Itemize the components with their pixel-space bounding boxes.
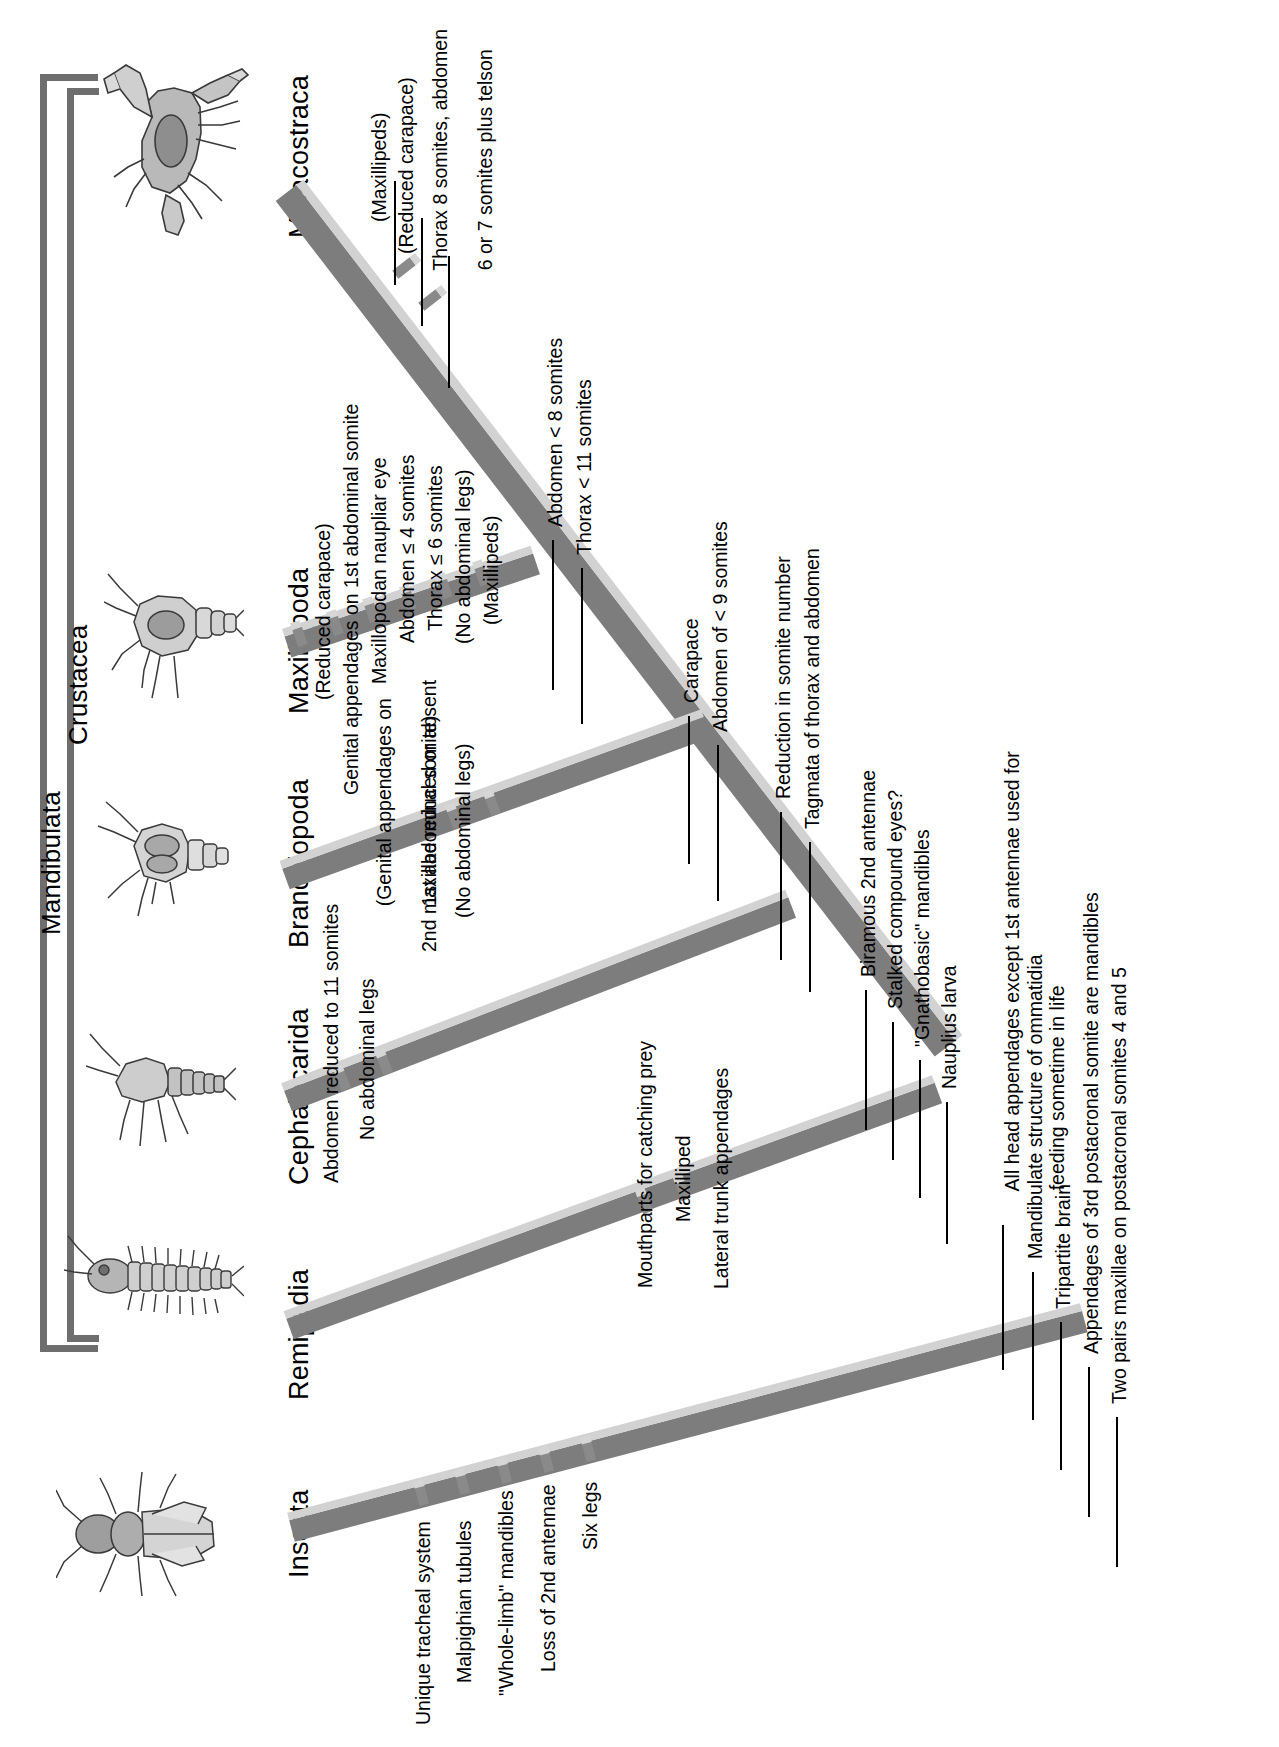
- char-node-mandibulata-1-line2: feeding sometime in life: [1046, 985, 1068, 1190]
- leader-node-mandibulata-4: [1088, 1367, 1090, 1517]
- char-node-carapace-2: Abdomen of < 9 somites: [709, 521, 732, 732]
- char-insecta-3: "Whole-limb" mandibles: [495, 1490, 518, 1696]
- leader-node-mandibulata-5: [1116, 1417, 1118, 1567]
- branchiopod-illustration: [96, 800, 231, 940]
- crab-illustration: [100, 55, 250, 240]
- char-branchiopoda-1: (Genital appendages on 1st abdominal som…: [350, 698, 463, 928]
- char-remipedia-2: Maxilliped: [672, 1135, 695, 1222]
- char-maxillopoda-7: (Maxillipeds): [480, 516, 503, 625]
- char-node-reduction-2: Tagmata of thorax and abdomen: [801, 548, 824, 829]
- char-insecta-2: Malpighian tubules: [453, 1520, 476, 1683]
- char-node-mandibulata-1-line1: All head appendages except 1st antennae …: [1001, 751, 1023, 1191]
- leader-node-crustacea-3: [919, 1060, 921, 1198]
- leader-node-malmax-1: [552, 540, 554, 690]
- leader-node-mandibulata-1: [1002, 1225, 1004, 1370]
- char-malacostraca-3-line2: 6 or 7 somites plus telson: [474, 49, 496, 270]
- char-node-mandibulata-5: Two pairs maxillae on postacronal somite…: [1108, 967, 1131, 1404]
- char-insecta-5: Six legs: [579, 1482, 602, 1550]
- branch-remipedia: [286, 1083, 942, 1340]
- char-cephalocarida-1: Abdomen reduced to 11 somites: [320, 904, 343, 1183]
- leader-node-crustacea-2: [892, 1022, 894, 1160]
- leader-node-crustacea-4: [946, 1102, 948, 1244]
- char-node-mandibulata-2: Mandibulate structure of ommatidia: [1024, 954, 1047, 1259]
- char-maxillopoda-3: Maxillopodan naupliar eye: [368, 457, 391, 684]
- char-malacostraca-1: (Maxillipeds): [368, 113, 391, 222]
- char-maxillopoda-5: Thorax ≤ 6 somites: [424, 465, 447, 631]
- char-remipedia-3: Lateral trunk appendages: [710, 1068, 733, 1289]
- char-node-mandibulata-4: Appendages of 3rd postacronal somite are…: [1080, 892, 1103, 1354]
- cephalocarid-illustration: [86, 1028, 236, 1188]
- leader-node-reduction-2: [809, 842, 811, 992]
- beetle-illustration: [56, 1450, 221, 1630]
- char-maxillopoda-6: (No abdominal legs): [452, 469, 475, 644]
- char-maxillopoda-4: Abdomen ≤ 4 somites: [396, 455, 419, 643]
- branch-insecta: [289, 1311, 1087, 1542]
- char-cephalocarida-2: No abdominal legs: [356, 978, 379, 1140]
- char-insecta-4: Loss of 2nd antennae: [537, 1484, 560, 1672]
- char-remipedia-1: Mouthparts for catching prey: [634, 1041, 657, 1288]
- char-malacostraca-3-line1: Thorax 8 somites, abdomen: [429, 29, 451, 271]
- leader-node-malmax-2: [581, 568, 583, 724]
- char-node-reduction-1: Reduction in somite number: [772, 556, 795, 799]
- leader-node-mandibulata-3: [1060, 1322, 1062, 1470]
- char-node-malmax-2: Thorax < 11 somites: [573, 379, 596, 555]
- bracket-label-mandibulata: Mandibulata: [36, 791, 67, 935]
- leader-node-mandibulata-2: [1032, 1272, 1034, 1420]
- remipede-illustration: [64, 1228, 244, 1413]
- bracket-label-crustacea: Crustacea: [63, 625, 94, 745]
- char-node-crustacea-4: Nauplius larva: [938, 965, 961, 1089]
- char-node-mandibulata-3: Tripartite brain: [1052, 1184, 1075, 1309]
- leader-node-reduction-1: [780, 812, 782, 960]
- char-node-crustacea-3: "Gnathobasic" mandibles: [911, 829, 934, 1047]
- cladogram-figure: Mandibulata Crustacea: [0, 0, 1279, 1747]
- char-branchiopoda-3: (No abdominal legs): [452, 743, 475, 918]
- char-malacostraca-3: Thorax 8 somites, abdomen 6 or 7 somites…: [406, 29, 519, 292]
- copepod-illustration: [104, 570, 244, 720]
- char-node-crustacea-1: Biramous 2nd antennae: [857, 770, 880, 977]
- char-node-carapace-1: Carapace: [680, 618, 703, 703]
- leader-node-carapace-2: [717, 745, 719, 901]
- char-node-malmax-1: Abdomen < 8 somites: [544, 338, 567, 527]
- leader-node-crustacea-1: [865, 990, 867, 1130]
- bracket-crustacea-top-arm: [67, 88, 99, 95]
- char-insecta-1: Unique tracheal system: [412, 1521, 435, 1725]
- char-branchiopoda-1-line1: (Genital appendages on: [373, 698, 395, 906]
- char-node-crustacea-2: Stalked compound eyes?: [884, 790, 907, 1009]
- bracket-mandibulata-vertical: [40, 74, 47, 1352]
- leader-node-carapace-1: [688, 716, 690, 864]
- char-maxillopoda-1: (Reduced carapace): [312, 523, 335, 700]
- bracket-mandibulata-top-arm: [40, 74, 98, 81]
- char-branchiopoda-2: 2nd maxillae reduced or absent: [418, 680, 441, 952]
